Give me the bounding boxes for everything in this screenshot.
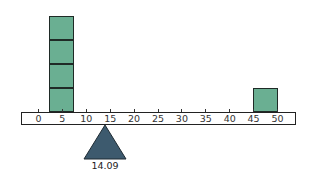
axis-tick-label: 50 — [271, 113, 283, 124]
fulcrum-triangle-icon — [83, 124, 127, 160]
weight-block — [253, 88, 278, 112]
axis-tick-label: 20 — [128, 113, 140, 124]
axis-tick-label: 15 — [104, 113, 116, 124]
weight-block — [49, 40, 74, 64]
axis-tick-label: 30 — [176, 113, 188, 124]
axis-tick-label: 25 — [152, 113, 164, 124]
axis-tick-label: 40 — [224, 113, 236, 124]
weight-block — [49, 64, 74, 88]
axis-tick-label: 0 — [35, 113, 41, 124]
axis-tick-label: 35 — [200, 113, 212, 124]
fulcrum-position-label: 14.09 — [91, 160, 118, 171]
axis-tick-label: 5 — [59, 113, 65, 124]
weight-block — [49, 16, 74, 40]
axis-tick-label: 10 — [80, 113, 92, 124]
axis-tick-label: 45 — [248, 113, 260, 124]
